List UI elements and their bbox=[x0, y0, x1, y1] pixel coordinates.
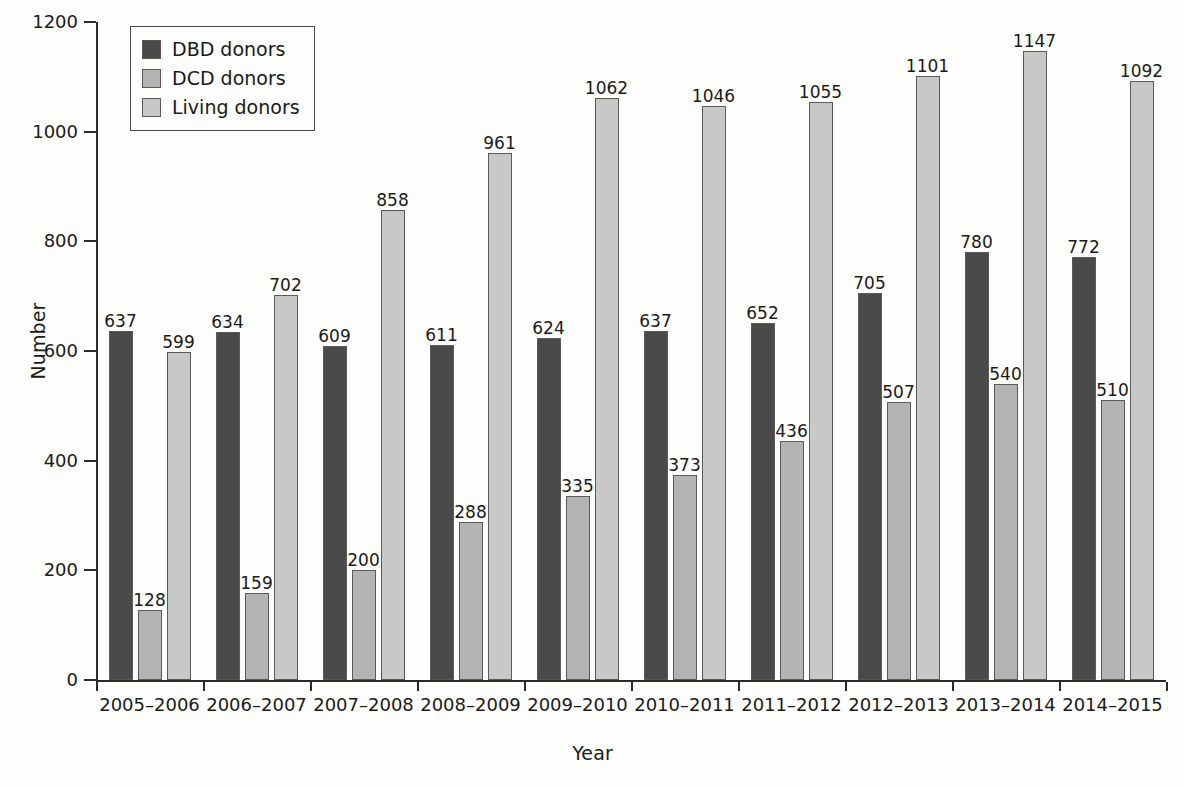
x-axis-tick bbox=[1059, 682, 1061, 691]
bar-value-label: 159 bbox=[240, 575, 272, 592]
donor-numbers-bar-chart: Number Year 020040060080010001200 637128… bbox=[0, 0, 1185, 788]
bar[interactable]: 1046 bbox=[702, 106, 726, 680]
bar[interactable]: 159 bbox=[245, 593, 269, 680]
x-axis-tick bbox=[738, 682, 740, 691]
bar-group: 609200858 bbox=[323, 22, 405, 680]
bar-value-label: 637 bbox=[639, 313, 671, 330]
bar[interactable]: 1101 bbox=[916, 76, 940, 680]
y-axis-tick-label: 0 bbox=[0, 671, 78, 689]
y-axis-tick-label: 600 bbox=[0, 342, 78, 360]
bar[interactable]: 611 bbox=[430, 345, 454, 680]
legend-item[interactable]: DCD donors bbox=[142, 64, 300, 93]
x-axis-category-label: 2006–2007 bbox=[206, 696, 307, 714]
y-axis-tick bbox=[84, 240, 96, 242]
legend-swatch-icon bbox=[142, 69, 161, 88]
bar-value-label: 858 bbox=[376, 192, 408, 209]
bar[interactable]: 652 bbox=[751, 323, 775, 681]
bar[interactable]: 436 bbox=[780, 441, 804, 680]
x-axis-tick bbox=[310, 682, 312, 691]
bar-value-label: 288 bbox=[454, 504, 486, 521]
bar[interactable]: 1092 bbox=[1130, 81, 1154, 680]
y-axis-tick bbox=[84, 131, 96, 133]
bar[interactable]: 702 bbox=[274, 295, 298, 680]
bar[interactable]: 858 bbox=[381, 210, 405, 680]
x-axis-tick bbox=[524, 682, 526, 691]
bar[interactable]: 507 bbox=[887, 402, 911, 680]
y-axis-tick bbox=[84, 679, 96, 681]
x-axis-title: Year bbox=[0, 742, 1185, 764]
x-axis-tick bbox=[845, 682, 847, 691]
x-axis-tick bbox=[96, 682, 98, 691]
bar-group: 7725101092 bbox=[1072, 22, 1154, 680]
bar[interactable]: 609 bbox=[323, 346, 347, 680]
bar[interactable]: 637 bbox=[109, 331, 133, 680]
bar[interactable]: 961 bbox=[488, 153, 512, 680]
bar[interactable]: 624 bbox=[537, 338, 561, 680]
y-axis-tick-label: 400 bbox=[0, 452, 78, 470]
y-axis-tick bbox=[84, 21, 96, 23]
y-axis-tick-label: 1200 bbox=[0, 13, 78, 31]
legend-swatch-icon bbox=[142, 40, 161, 59]
x-axis-category-label: 2012–2013 bbox=[848, 696, 949, 714]
bar-value-label: 373 bbox=[668, 457, 700, 474]
y-axis-tick bbox=[84, 350, 96, 352]
legend-item-label: DBD donors bbox=[172, 40, 285, 59]
legend-item[interactable]: DBD donors bbox=[142, 35, 300, 64]
bar-value-label: 599 bbox=[162, 334, 194, 351]
bar[interactable]: 1055 bbox=[809, 102, 833, 680]
y-axis-tick-label: 800 bbox=[0, 232, 78, 250]
bar[interactable]: 705 bbox=[858, 293, 882, 680]
bar-value-label: 611 bbox=[425, 327, 457, 344]
bar-group: 6373731046 bbox=[644, 22, 726, 680]
bar[interactable]: 634 bbox=[216, 332, 240, 680]
bar-value-label: 200 bbox=[347, 552, 379, 569]
bar-value-label: 1092 bbox=[1120, 63, 1163, 80]
bar-value-label: 961 bbox=[483, 135, 515, 152]
bar-group: 611288961 bbox=[430, 22, 512, 680]
bar-value-label: 1055 bbox=[799, 84, 842, 101]
bar[interactable]: 599 bbox=[167, 352, 191, 680]
x-axis-tick bbox=[1166, 682, 1168, 691]
bar[interactable]: 288 bbox=[459, 522, 483, 680]
bar[interactable]: 540 bbox=[994, 384, 1018, 680]
y-axis-tick bbox=[84, 569, 96, 571]
bar-value-label: 540 bbox=[989, 366, 1021, 383]
x-axis-tick bbox=[952, 682, 954, 691]
bar-value-label: 634 bbox=[211, 314, 243, 331]
bar[interactable]: 335 bbox=[566, 496, 590, 680]
bar-value-label: 335 bbox=[561, 478, 593, 495]
x-axis-category-label: 2013–2014 bbox=[955, 696, 1056, 714]
bar[interactable]: 373 bbox=[673, 475, 697, 680]
y-axis-tick-label: 1000 bbox=[0, 123, 78, 141]
bar[interactable]: 128 bbox=[138, 610, 162, 680]
bar[interactable]: 510 bbox=[1101, 400, 1125, 680]
y-axis-line bbox=[96, 22, 98, 682]
bar[interactable]: 780 bbox=[965, 252, 989, 680]
bar[interactable]: 200 bbox=[352, 570, 376, 680]
bar-group: 7805401147 bbox=[965, 22, 1047, 680]
legend-item-label: DCD donors bbox=[172, 69, 286, 88]
bar-group: 6243351062 bbox=[537, 22, 619, 680]
x-axis-tick bbox=[417, 682, 419, 691]
bar-value-label: 436 bbox=[775, 423, 807, 440]
bar-value-label: 1046 bbox=[692, 88, 735, 105]
bar-value-label: 637 bbox=[104, 313, 136, 330]
x-axis-category-label: 2009–2010 bbox=[527, 696, 628, 714]
legend-item[interactable]: Living donors bbox=[142, 93, 300, 122]
bar-value-label: 780 bbox=[960, 234, 992, 251]
bar-value-label: 702 bbox=[269, 277, 301, 294]
x-axis-category-label: 2014–2015 bbox=[1062, 696, 1163, 714]
y-axis-tick bbox=[84, 460, 96, 462]
bar-value-label: 652 bbox=[746, 305, 778, 322]
bar-value-label: 772 bbox=[1067, 239, 1099, 256]
bar[interactable]: 637 bbox=[644, 331, 668, 680]
x-axis-tick bbox=[631, 682, 633, 691]
x-axis-category-label: 2011–2012 bbox=[741, 696, 842, 714]
bar[interactable]: 1147 bbox=[1023, 51, 1047, 680]
bar[interactable]: 1062 bbox=[595, 98, 619, 680]
x-axis-category-label: 2008–2009 bbox=[420, 696, 521, 714]
bar-value-label: 624 bbox=[532, 320, 564, 337]
bar[interactable]: 772 bbox=[1072, 257, 1096, 680]
bar-value-label: 507 bbox=[882, 384, 914, 401]
bar-value-label: 1101 bbox=[906, 58, 949, 75]
